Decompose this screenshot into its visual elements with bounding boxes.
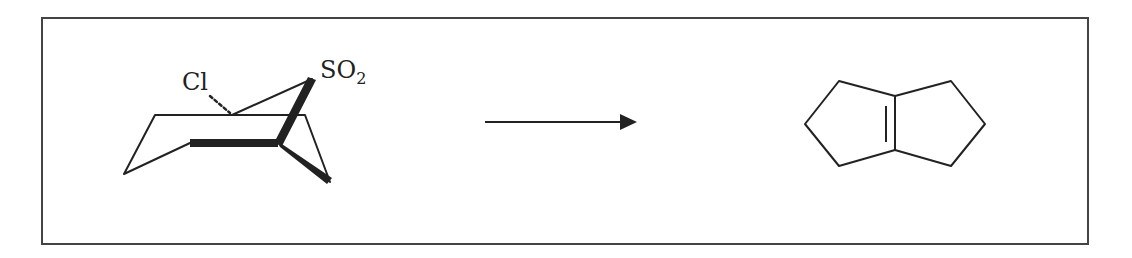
reaction-arrow [485,114,637,130]
reactant-structure [124,77,332,184]
ring-back-bonds [124,115,330,182]
right-ring [895,81,985,166]
frame-border [42,18,1088,244]
arrow-head-icon [620,114,637,130]
left-ring [805,81,895,166]
hashed-bond-cl [210,96,230,113]
sulfonyl-label: SO2 [320,56,366,88]
reaction-scheme: Cl SO2 [0,0,1132,258]
product-structure [805,81,985,166]
chlorine-label: Cl [182,68,208,96]
